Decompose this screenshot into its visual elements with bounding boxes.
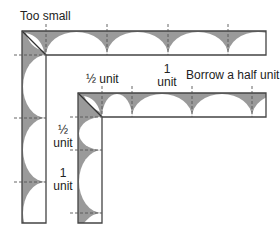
one-unit-top-word: unit	[152, 76, 182, 89]
too-small-label: Too small	[20, 10, 71, 23]
half-unit-top-label: ½ unit	[86, 73, 119, 86]
borrow-half-unit-label: Borrow a half unit.	[186, 69, 280, 82]
half-unit-left-word: unit	[48, 137, 78, 150]
scallop-border-diagram	[0, 0, 280, 237]
inner-border-borrowed	[70, 86, 280, 237]
one-unit-left-word: unit	[48, 180, 78, 193]
